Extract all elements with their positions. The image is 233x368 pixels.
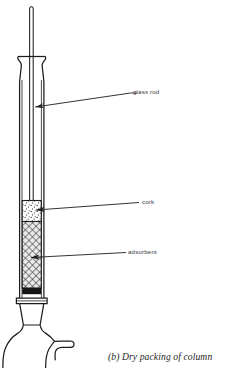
adsorbent-bed	[22, 222, 41, 289]
ground-glass-joint	[16, 298, 47, 325]
leader-line-adsorbent	[31, 253, 126, 258]
receiving-flask	[3, 325, 74, 368]
figure-caption: (b) Dry packing of column	[108, 351, 212, 362]
leader-line-glass-rod	[35, 93, 137, 107]
label-cork: cork	[142, 199, 154, 205]
leader-line-cork	[36, 203, 139, 211]
label-adsorbent: adsorbent	[128, 249, 157, 255]
cork	[22, 201, 41, 222]
column-diagram-svg	[0, 0, 233, 368]
label-glass-rod: glass rod	[133, 89, 159, 95]
figure-dry-packing-of-column: glass rod cork adsorbent (b) Dry packing…	[0, 0, 233, 368]
glass-rod	[30, 7, 34, 201]
cotton-plug	[22, 288, 41, 294]
